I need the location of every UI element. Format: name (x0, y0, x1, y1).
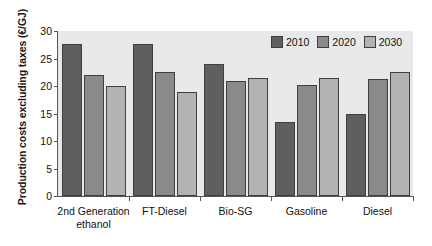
x-axis-category-label: FT-Diesel (142, 205, 187, 218)
x-axis-category-label: Diesel (363, 205, 392, 218)
legend-label-2020: 2020 (332, 36, 355, 48)
bar-chart-figure: Production costs excluding taxes (€/GJ) … (0, 0, 432, 246)
bar-2010 (133, 44, 153, 196)
bar-2030 (390, 72, 410, 196)
legend-label-2010: 2010 (286, 36, 309, 48)
bar-2010 (204, 64, 224, 196)
legend-swatch-icon-2030 (364, 36, 376, 48)
legend-item-2020: 2020 (317, 36, 355, 48)
y-axis-tick-label: 30 (40, 25, 58, 37)
legend-swatch-icon-2010 (271, 36, 283, 48)
bar-2020 (84, 75, 104, 196)
bar-2020 (368, 79, 388, 196)
x-axis-category-label: Bio-SG (219, 205, 253, 218)
x-axis-tick (200, 196, 201, 201)
x-axis-category-label: Gasoline (286, 205, 327, 218)
bar-2010 (62, 44, 82, 196)
bar-2020 (226, 81, 246, 197)
bar-2010 (346, 114, 366, 197)
legend-swatch-icon-2020 (317, 36, 329, 48)
x-axis-tick (129, 196, 130, 201)
y-axis-tick-label: 5 (46, 163, 58, 175)
x-axis-category-label: 2nd Generation ethanol (57, 205, 129, 230)
x-axis-tick (413, 196, 414, 201)
y-axis-tick-label: 25 (40, 53, 58, 65)
y-axis-tick-label: 0 (46, 190, 58, 202)
y-axis-tick-label: 10 (40, 135, 58, 147)
legend-item-2030: 2030 (364, 36, 402, 48)
bar-group (342, 31, 413, 196)
bar-2010 (275, 122, 295, 196)
legend-label-2030: 2030 (379, 36, 402, 48)
bar-2030 (177, 92, 197, 197)
bar-2020 (297, 85, 317, 196)
y-axis-tick-label: 20 (40, 80, 58, 92)
x-axis-tick (342, 196, 343, 201)
x-axis-tick (271, 196, 272, 201)
bar-2030 (106, 86, 126, 196)
bar-group (58, 31, 129, 196)
chart-legend: 2010 2020 2030 (271, 36, 402, 48)
plot-area: 0510152025302nd Generation ethanolFT-Die… (57, 31, 413, 197)
y-axis-title: Production costs excluding taxes (€/GJ) (16, 7, 28, 207)
bar-group (271, 31, 342, 196)
bar-group (129, 31, 200, 196)
bar-group (200, 31, 271, 196)
bar-groups-container (58, 31, 413, 196)
y-axis-tick-label: 15 (40, 108, 58, 120)
legend-item-2010: 2010 (271, 36, 309, 48)
bar-2030 (248, 78, 268, 196)
bar-2020 (155, 72, 175, 196)
bar-2030 (319, 78, 339, 196)
